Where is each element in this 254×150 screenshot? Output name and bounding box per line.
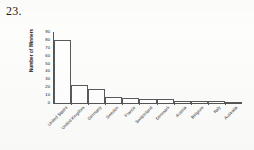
scanned-page: 23. Number of Winners 908070605040302010…: [0, 0, 254, 150]
y-tick-label: 90: [45, 30, 50, 34]
bar: [208, 101, 225, 103]
y-axis-title: Number of Winners: [29, 21, 34, 81]
x-tick-label: Denmark: [155, 105, 171, 121]
bar: [122, 98, 139, 103]
bar: [174, 101, 191, 103]
x-tick-label: Sweden: [105, 105, 120, 120]
item-number: 23.: [6, 4, 22, 19]
y-tick-label: 30: [45, 77, 50, 81]
y-axis-tick-labels: 9080706050403020100: [36, 32, 50, 103]
x-tick-label: Belgium: [190, 105, 205, 120]
x-tick-label: Austria: [175, 105, 188, 118]
bar: [139, 99, 156, 103]
y-tick-label: 0: [48, 101, 50, 105]
y-tick-label: 60: [45, 54, 50, 58]
bar: [71, 85, 88, 103]
x-axis-tick-labels: United StatesUnited KingdomGermanySweden…: [53, 105, 241, 150]
y-tick-label: 80: [45, 38, 50, 42]
y-tick-label: 50: [45, 61, 50, 65]
plot-area: [53, 32, 242, 104]
x-tick-label: Australia: [223, 105, 238, 120]
y-tick-label: 10: [45, 93, 50, 97]
y-tick-label: 70: [45, 46, 50, 50]
bar: [157, 99, 174, 103]
bar-chart: Number of Winners 9080706050403020100 Un…: [18, 26, 246, 146]
y-tick-label: 40: [45, 69, 50, 73]
bar: [225, 102, 242, 103]
x-tick-label: France: [123, 105, 136, 118]
bar: [191, 101, 208, 103]
bar-series: [54, 32, 242, 103]
bar: [105, 97, 122, 103]
y-tick-label: 20: [45, 85, 50, 89]
x-tick-label: Italy: [213, 105, 222, 114]
bar: [54, 40, 71, 103]
x-tick-label: Germany: [86, 105, 102, 121]
bar: [88, 89, 105, 103]
